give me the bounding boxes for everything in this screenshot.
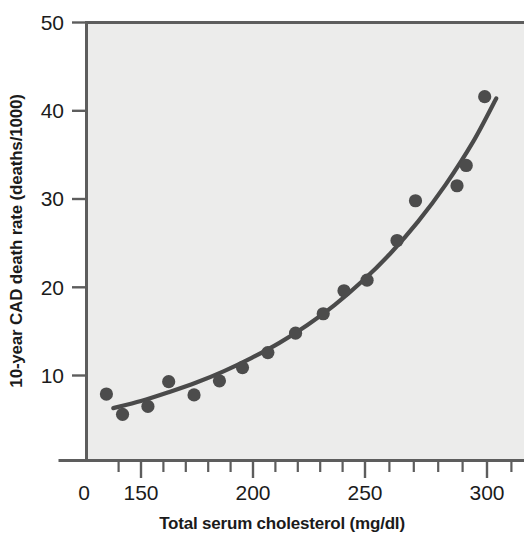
data-point xyxy=(162,375,175,388)
plot-area-background xyxy=(85,22,524,459)
x-tick-label-300: 300 xyxy=(469,481,504,504)
x-tick-label-150: 150 xyxy=(123,481,158,504)
y-tick-label-50: 50 xyxy=(41,11,64,34)
y-axis-title: 10-year CAD death rate (deaths/1000) xyxy=(7,94,26,387)
y-tick-label-10: 10 xyxy=(41,364,64,387)
x-axis-ticks xyxy=(119,462,512,478)
x-tick-label-250: 250 xyxy=(347,481,382,504)
data-point xyxy=(460,159,473,172)
x-tick-label-0: 0 xyxy=(78,481,90,504)
data-point xyxy=(289,327,302,340)
y-tick-label-40: 40 xyxy=(41,99,64,122)
chart-figure: 50 40 30 20 10 0 xyxy=(0,0,524,536)
data-point xyxy=(100,387,113,400)
data-point xyxy=(236,361,249,374)
scatter-plot: 50 40 30 20 10 0 xyxy=(0,0,524,536)
x-axis-tick-labels: 0 150 200 250 300 xyxy=(78,481,504,504)
y-tick-label-20: 20 xyxy=(41,276,64,299)
data-point xyxy=(187,388,200,401)
x-tick-label-200: 200 xyxy=(235,481,270,504)
data-point xyxy=(409,194,422,207)
data-point xyxy=(261,346,274,359)
y-tick-label-30: 30 xyxy=(41,187,64,210)
data-point xyxy=(141,400,154,413)
data-point xyxy=(337,284,350,297)
data-point xyxy=(116,408,129,421)
data-point xyxy=(213,374,226,387)
data-point xyxy=(360,274,373,287)
data-point xyxy=(317,307,330,320)
y-axis-ticks xyxy=(72,23,86,461)
data-point xyxy=(390,234,403,247)
y-axis-tick-labels: 50 40 30 20 10 xyxy=(41,11,64,387)
data-point xyxy=(478,90,491,103)
data-point xyxy=(450,179,463,192)
x-axis-title: Total serum cholesterol (mg/dl) xyxy=(159,514,405,533)
